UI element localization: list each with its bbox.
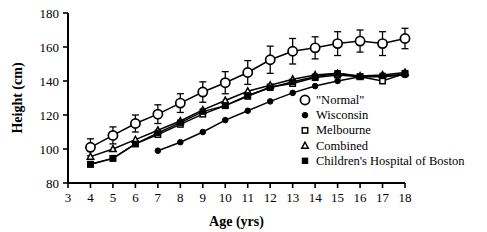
data-point — [355, 36, 364, 45]
data-point — [153, 110, 162, 119]
x-tick-label: 3 — [65, 190, 72, 205]
data-point — [198, 87, 207, 96]
legend-marker-filled-circle — [302, 112, 308, 118]
legend-marker-open-square — [302, 128, 307, 133]
data-point — [245, 93, 250, 98]
data-point — [200, 129, 206, 135]
x-tick-label: 12 — [264, 190, 277, 205]
data-point — [290, 90, 296, 96]
x-tick-label: 13 — [286, 190, 299, 205]
data-point — [290, 79, 295, 84]
data-point — [245, 108, 251, 114]
x-tick-label: 10 — [219, 190, 232, 205]
data-point — [87, 153, 93, 159]
y-tick-label: 160 — [40, 40, 60, 55]
data-point — [110, 156, 115, 161]
data-point — [178, 120, 183, 125]
data-point — [288, 47, 297, 56]
x-tick-label: 14 — [309, 190, 323, 205]
data-point — [378, 39, 387, 48]
data-point — [266, 55, 275, 64]
x-tick-label: 7 — [155, 190, 162, 205]
data-point — [200, 109, 205, 114]
legend-label: Children's Hospital of Boston — [316, 154, 465, 168]
data-point — [357, 74, 362, 79]
y-tick-label: 100 — [40, 142, 60, 157]
data-point — [267, 85, 272, 90]
legend-marker-filled-square — [302, 158, 307, 163]
x-tick-label: 18 — [399, 190, 412, 205]
data-point — [155, 148, 161, 154]
y-axis-title: Height (cm) — [10, 62, 26, 133]
data-point — [86, 143, 95, 152]
legend-item-2: Melbourne — [302, 123, 371, 137]
y-tick-label: 80 — [46, 176, 59, 191]
data-point — [221, 78, 230, 87]
data-point — [110, 146, 116, 152]
x-tick-label: 17 — [376, 190, 390, 205]
data-point — [222, 117, 228, 123]
legend-label: Combined — [316, 139, 369, 153]
x-axis-title: Age (yrs) — [209, 214, 264, 230]
data-point — [131, 119, 140, 128]
legend-label: Wisconsin — [316, 108, 369, 122]
data-point — [311, 43, 320, 52]
x-tick-label: 4 — [87, 190, 94, 205]
x-tick-label: 15 — [331, 190, 344, 205]
data-point — [178, 139, 184, 145]
legend-marker-open-triangle — [302, 142, 308, 148]
legend-item-3: Combined — [302, 139, 369, 153]
data-point — [155, 130, 160, 135]
y-tick-label: 180 — [40, 6, 60, 21]
data-point — [333, 39, 342, 48]
x-tick-label: 6 — [132, 190, 139, 205]
data-point — [267, 99, 273, 105]
chart-canvas: 8010012014016018034567891011121314151617… — [0, 0, 487, 232]
growth-chart: 8010012014016018034567891011121314151617… — [0, 0, 487, 232]
legend-label: Melbourne — [316, 123, 371, 137]
data-point — [223, 103, 228, 108]
data-point — [335, 78, 341, 84]
x-tick-label: 5 — [110, 190, 117, 205]
legend-marker-open-circle — [300, 95, 309, 104]
legend-item-0: "Normal" — [300, 93, 364, 107]
x-tick-label: 8 — [177, 190, 184, 205]
data-point — [88, 162, 93, 167]
x-tick-label: 16 — [354, 190, 368, 205]
data-point — [222, 97, 228, 103]
y-tick-label: 120 — [40, 108, 60, 123]
data-point — [402, 71, 407, 76]
data-point — [380, 73, 385, 78]
legend-item-4: Children's Hospital of Boston — [302, 154, 465, 168]
data-point — [335, 71, 340, 76]
legend-label: "Normal" — [316, 93, 364, 107]
x-tick-label: 11 — [241, 190, 254, 205]
data-point — [243, 68, 252, 77]
data-point — [400, 34, 409, 43]
data-point — [312, 74, 317, 79]
data-point — [108, 131, 117, 140]
x-tick-label: 9 — [200, 190, 207, 205]
y-tick-label: 140 — [40, 74, 60, 89]
legend-item-1: Wisconsin — [302, 108, 369, 122]
data-point — [312, 83, 318, 89]
data-point — [176, 99, 185, 108]
data-point — [133, 141, 138, 146]
